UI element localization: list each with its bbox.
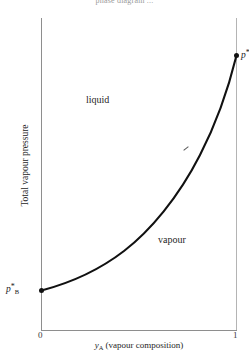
region-label-liquid: liquid [86, 94, 109, 106]
endpoint-marker-pb [39, 288, 44, 293]
endpoint-marker-pa [234, 53, 239, 58]
region-label-vapour: vapour [158, 234, 186, 246]
endpoint-label-pb: p*B [6, 282, 19, 297]
pressure-curve-path [42, 56, 237, 291]
endpoint-label-pa-superscript: * [246, 48, 249, 57]
phase-diagram-figure: phase diagram ... Total vapour pressure … [0, 0, 249, 356]
pressure-curve-svg [0, 0, 249, 356]
endpoint-label-pb-subscript: B [15, 288, 19, 295]
endpoint-label-pa: p*A [241, 48, 249, 63]
